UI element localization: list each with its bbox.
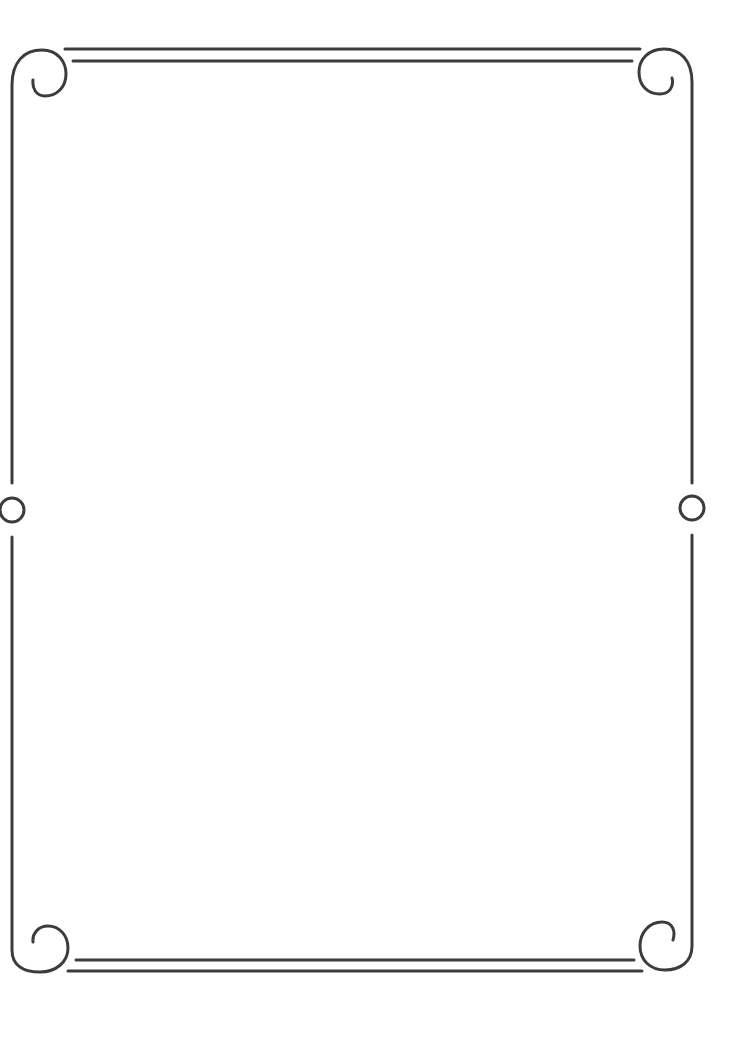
- top-right-scroll-icon: [639, 49, 692, 483]
- decorative-page-frame: [0, 0, 748, 1039]
- right-border-line: [640, 535, 692, 970]
- top-left-scroll-icon: [12, 50, 66, 483]
- left-border-line: [12, 537, 68, 972]
- right-mid-ring-icon: [680, 496, 704, 520]
- top-double-rule: [65, 49, 640, 61]
- bottom-double-rule: [68, 960, 642, 971]
- left-mid-ring-icon: [0, 498, 24, 522]
